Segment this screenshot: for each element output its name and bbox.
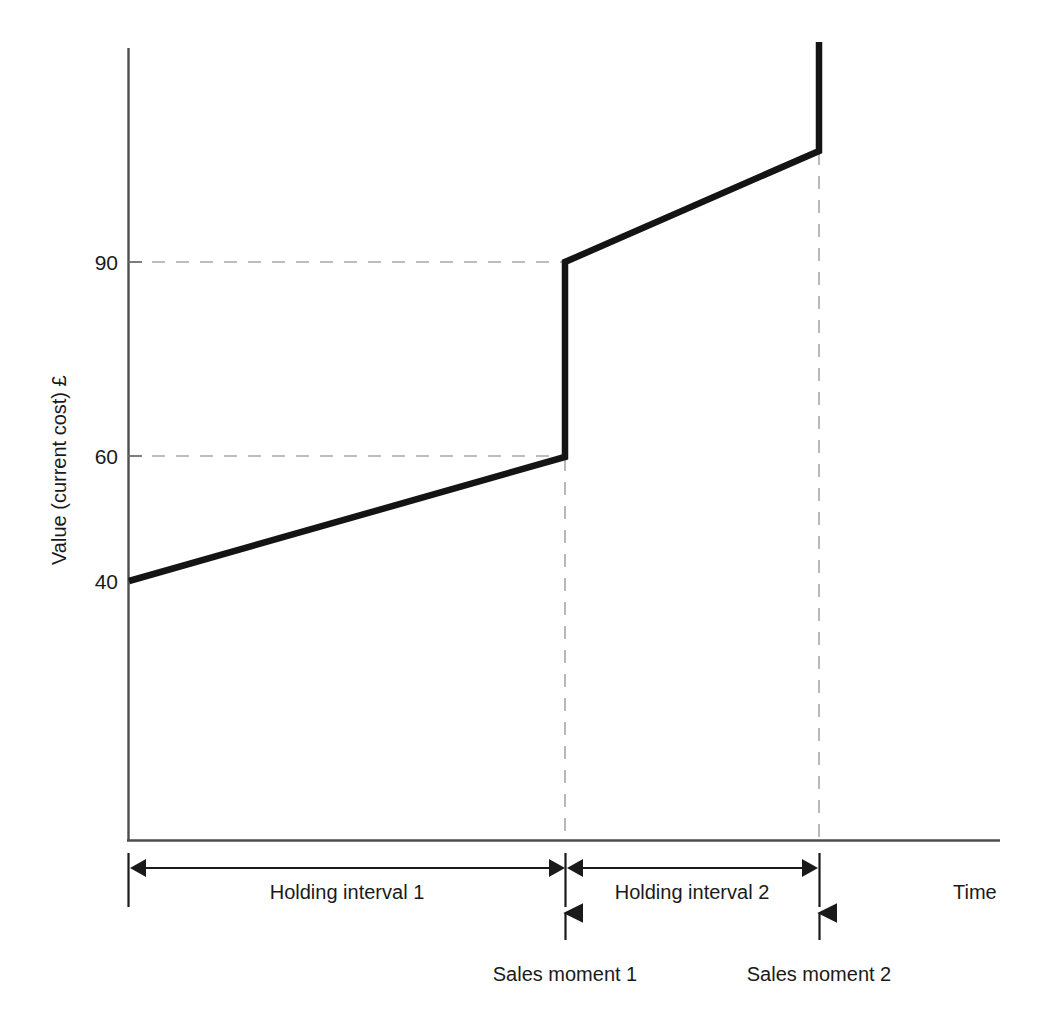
holding-interval-1-label: Holding interval 1 — [270, 881, 425, 903]
chart-figure: 90 60 40 Value (current cost) £ Holding … — [0, 0, 1048, 1019]
x-axis-title: Time — [953, 881, 997, 903]
step-line-chart: 90 60 40 Value (current cost) £ Holding … — [0, 0, 1048, 1019]
sales-moment-1-label: Sales moment 1 — [493, 963, 638, 985]
holding-interval-2-label: Holding interval 2 — [615, 881, 770, 903]
value-series-line — [129, 42, 819, 581]
y-axis-title: Value (current cost) £ — [48, 375, 70, 565]
sales-moment-2-label: Sales moment 2 — [747, 963, 892, 985]
y-tick-label-40: 40 — [95, 570, 118, 593]
y-tick-label-60: 60 — [95, 445, 118, 468]
y-tick-label-90: 90 — [95, 251, 118, 274]
